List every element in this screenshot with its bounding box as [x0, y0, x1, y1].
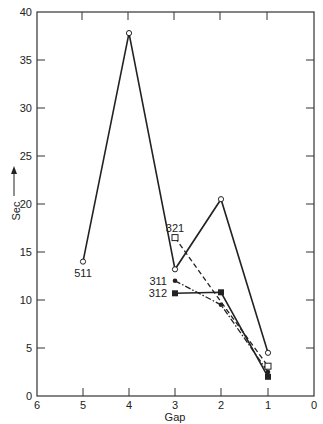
x-axis-title: Gap [165, 411, 186, 423]
y-tick-10: 10 [20, 294, 32, 306]
y-tick-30: 30 [20, 102, 32, 114]
y-axis-ticks [37, 60, 314, 348]
y-axis-title-group: Sec [10, 166, 22, 220]
series-511-markers [80, 30, 270, 355]
x-tick-3: 3 [172, 399, 178, 411]
y-tick-25: 25 [20, 150, 32, 162]
x-tick-4: 4 [126, 399, 132, 411]
x-tick-1: 1 [265, 399, 271, 411]
x-tick-0: 0 [311, 399, 317, 411]
label-311: 311 [149, 275, 167, 287]
label-321: 321 [166, 222, 184, 234]
y-tick-5: 5 [26, 342, 32, 354]
x-tick-6: 6 [34, 399, 40, 411]
y-tick-0: 0 [26, 390, 32, 402]
x-axis-ticks [82, 12, 268, 396]
label-312: 312 [149, 287, 167, 299]
y-tick-15: 15 [20, 246, 32, 258]
up-arrow-icon [11, 166, 17, 174]
y-tick-40: 40 [20, 6, 32, 18]
plot-frame [37, 12, 314, 396]
y-axis-title: Sec [10, 201, 22, 220]
x-tick-labels: 6 5 4 3 2 1 0 [34, 399, 317, 411]
label-511: 511 [74, 267, 92, 279]
x-tick-2: 2 [218, 399, 224, 411]
line-chart: 0 5 10 15 20 25 30 35 40 6 5 4 3 2 1 0 G… [0, 0, 323, 424]
series-321-line [175, 238, 268, 367]
x-tick-5: 5 [80, 399, 86, 411]
series-511-line [83, 33, 268, 353]
y-tick-35: 35 [20, 54, 32, 66]
